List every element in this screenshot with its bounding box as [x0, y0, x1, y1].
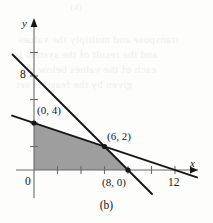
point-label-8-0: (8, 0)	[102, 177, 126, 188]
x-axis-label: x	[190, 158, 195, 169]
point-label-0-4: (0, 4)	[37, 105, 61, 116]
vertex-marker-0-4	[31, 120, 36, 125]
y-axis-label: y	[22, 18, 27, 29]
x-tick-label-12: 12	[168, 177, 180, 189]
figure-caption: (b)	[0, 200, 213, 212]
vertex-marker-6-2	[102, 144, 107, 149]
vertex-marker-8-0	[125, 167, 130, 172]
figure-container: transpose and multiply the values and th…	[0, 0, 213, 223]
point-label-6-2: (6, 2)	[107, 131, 131, 142]
origin-label: 0	[25, 176, 31, 188]
y-axis-arrowhead	[31, 18, 38, 27]
coordinate-plot	[0, 0, 213, 223]
y-tick-label-8: 8	[20, 69, 26, 81]
